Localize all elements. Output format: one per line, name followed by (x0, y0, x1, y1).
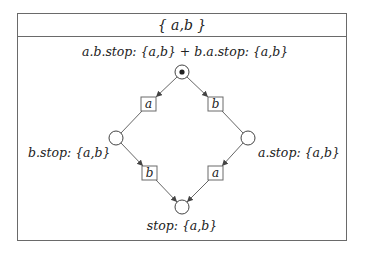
edge-a-to-final (187, 180, 209, 202)
state-final (175, 200, 189, 214)
action-label: b (146, 166, 154, 180)
edge-b-to-after-b (222, 111, 243, 133)
transition-graph: a b b a (0, 0, 365, 255)
action-label: b (212, 97, 220, 111)
action-label: a (145, 97, 152, 111)
edge-after-b-to-a (222, 143, 243, 166)
action-label: a (212, 166, 219, 180)
edge-a-to-after-a (121, 111, 142, 133)
edge-start-to-b (187, 77, 208, 97)
state-label-final: stop: {a,b} (132, 218, 232, 233)
state-label-start: a.b.stop: {a,b} + b.a.stop: {a,b} (82, 44, 282, 59)
state-after-b (241, 131, 255, 145)
state-label-after-b: a.stop: {a,b} (258, 145, 340, 160)
edge-b-to-final (156, 180, 177, 202)
state-after-a (109, 131, 123, 145)
state-label-after-a: b.stop: {a,b} (28, 145, 110, 160)
edge-start-to-a (156, 77, 177, 97)
edge-after-a-to-b (121, 143, 143, 166)
initial-state-dot-icon (179, 69, 184, 74)
